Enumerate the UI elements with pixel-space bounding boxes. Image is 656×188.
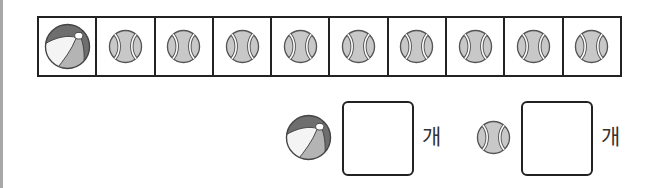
beach-ball-unit-label: 개	[422, 127, 441, 148]
tennis-ball-count-input[interactable]	[521, 101, 593, 176]
tennis-ball-unit-label: 개	[601, 127, 620, 148]
tennis-ball-icon	[476, 120, 511, 155]
answer-section: 개 개	[0, 0, 656, 188]
beach-ball-count-input[interactable]	[342, 101, 414, 176]
beach-ball-icon	[285, 114, 332, 161]
